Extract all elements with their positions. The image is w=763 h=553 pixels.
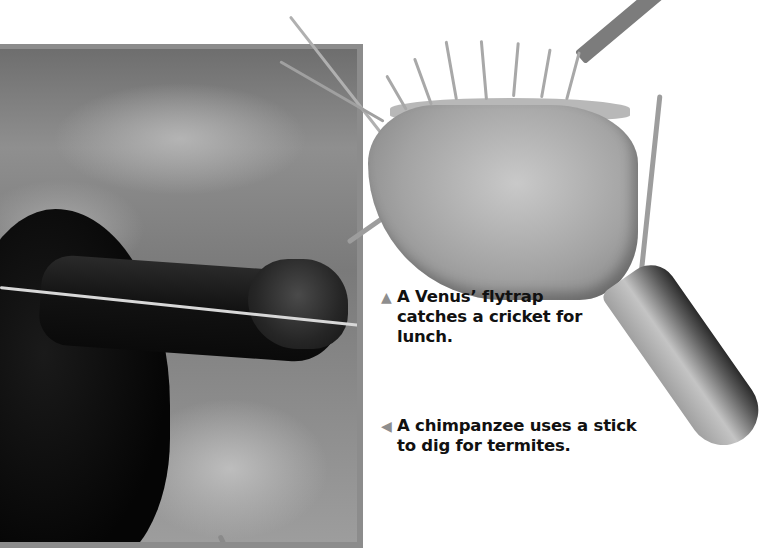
trap-tooth xyxy=(540,48,552,98)
trap-tooth xyxy=(445,41,458,101)
up-triangle-icon: ▲ xyxy=(381,287,392,307)
chimp-caption: ◀ A chimpanzee uses a stick to dig for t… xyxy=(397,416,657,456)
trap-tooth xyxy=(413,58,433,106)
trap-tooth xyxy=(480,40,488,100)
trap-lobe xyxy=(368,105,638,300)
twig xyxy=(217,534,251,542)
flytrap-caption-text: A Venus’ flytrap catches a cricket for l… xyxy=(397,287,582,346)
trap-tooth xyxy=(565,51,581,100)
cricket-leg xyxy=(575,0,670,64)
venus-flytrap-photo xyxy=(280,10,723,470)
flytrap-caption: ▲ A Venus’ flytrap catches a cricket for… xyxy=(397,287,597,347)
chimp-caption-text: A chimpanzee uses a stick to dig for ter… xyxy=(397,416,637,455)
left-triangle-icon: ◀ xyxy=(381,416,392,436)
trap-tooth xyxy=(512,42,520,97)
